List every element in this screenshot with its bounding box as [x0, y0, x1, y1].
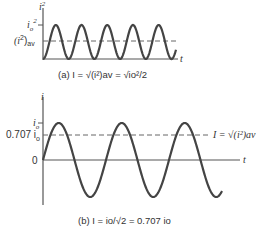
tick-label-rms-b: 0.707 io	[6, 129, 40, 142]
caption-a: (a) I = √(i²)av = √io²/2	[58, 69, 147, 80]
tick-label-zero-b: 0	[32, 155, 38, 166]
tick-label-average-a: (i2)av	[14, 34, 35, 47]
x-axis-label-a: t	[180, 53, 183, 64]
caption-b: (b) I = io/√2 = 0.707 io	[78, 215, 171, 226]
rms-annotation-b: I = √(i²)av	[212, 129, 256, 141]
rms-diagram: i2 io2 (i2)av t (a) I = √(i²)av = √io²/2…	[0, 0, 271, 228]
panel-a: i2 io2 (i2)av t (a) I = √(i²)av = √io²/2	[14, 0, 183, 80]
y-axis-label-a: i2	[39, 0, 46, 12]
panel-b: i io 0.707 io 0 t I = √(i²)av (b) I = io…	[6, 91, 256, 226]
tick-label-peak-a: io2	[27, 17, 37, 33]
x-axis-label-b: t	[243, 154, 246, 165]
y-axis-label-b: i	[41, 91, 44, 102]
i-squared-curve	[43, 25, 176, 59]
